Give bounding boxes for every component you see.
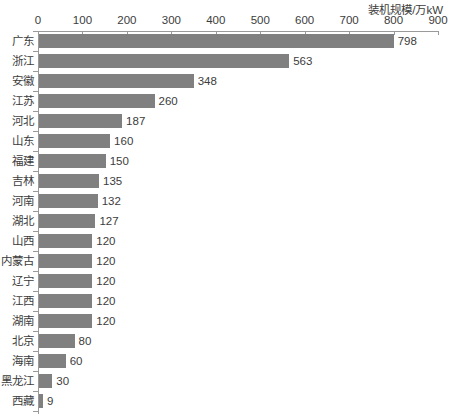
bar-value-label: 9 [47, 394, 53, 408]
category-label: 湖南 [12, 314, 34, 328]
category-label: 海南 [12, 354, 34, 368]
x-tick-label: 800 [384, 14, 403, 26]
bar [39, 74, 194, 88]
bar-row: 山东160 [0, 131, 451, 151]
x-tick-label: 600 [295, 14, 314, 26]
category-label: 山东 [12, 134, 34, 148]
bar-row: 江西120 [0, 291, 451, 311]
x-tick-label: 700 [340, 14, 359, 26]
bar [39, 354, 66, 368]
category-label: 浙江 [12, 54, 34, 68]
bar-value-label: 120 [96, 274, 115, 288]
bar [39, 54, 289, 68]
bar [39, 314, 92, 328]
bar [39, 174, 99, 188]
bar [39, 294, 92, 308]
category-label: 福建 [12, 154, 34, 168]
category-label: 山西 [12, 234, 34, 248]
bar [39, 154, 106, 168]
bar-value-label: 563 [293, 54, 312, 68]
category-label: 内蒙古 [1, 254, 34, 268]
bar-row: 江苏260 [0, 91, 451, 111]
bar-row: 湖北127 [0, 211, 451, 231]
bar-row: 河南132 [0, 191, 451, 211]
category-label: 辽宁 [12, 274, 34, 288]
bar-row: 内蒙古120 [0, 251, 451, 271]
bar-row: 安徽348 [0, 71, 451, 91]
bar-value-label: 160 [114, 134, 133, 148]
x-tick-label: 900 [428, 14, 447, 26]
category-label: 西藏 [12, 394, 34, 408]
category-label: 江西 [12, 294, 34, 308]
bar-row: 山西120 [0, 231, 451, 251]
category-label: 黑龙江 [1, 374, 34, 388]
x-tick-label: 100 [73, 14, 92, 26]
bar-chart: 装机规模/万kW 0100200300400500600700800900 广东… [0, 0, 451, 417]
bar-value-label: 132 [102, 194, 121, 208]
category-label: 北京 [12, 334, 34, 348]
bar-row: 福建150 [0, 151, 451, 171]
y-tick-mark [33, 411, 38, 412]
x-tick-label: 0 [35, 14, 41, 26]
bar-row: 湖南120 [0, 311, 451, 331]
bar-value-label: 798 [398, 34, 417, 48]
bar-row: 河北187 [0, 111, 451, 131]
bar-row: 西藏9 [0, 391, 451, 411]
category-label: 吉林 [12, 174, 34, 188]
bar [39, 334, 75, 348]
bar-row: 吉林135 [0, 171, 451, 191]
bar-value-label: 80 [79, 334, 92, 348]
bar [39, 194, 98, 208]
bar-value-label: 120 [96, 314, 115, 328]
bar-value-label: 127 [99, 214, 118, 228]
bar-value-label: 120 [96, 294, 115, 308]
bar-value-label: 60 [70, 354, 83, 368]
bar-row: 海南60 [0, 351, 451, 371]
bar-row: 北京80 [0, 331, 451, 351]
bar-row: 浙江563 [0, 51, 451, 71]
category-label: 湖北 [12, 214, 34, 228]
bar [39, 394, 43, 408]
bar-row: 黑龙江30 [0, 371, 451, 391]
bar-value-label: 260 [159, 94, 178, 108]
bar-row: 辽宁120 [0, 271, 451, 291]
bar-value-label: 120 [96, 254, 115, 268]
x-tick-label: 500 [251, 14, 270, 26]
bar [39, 94, 155, 108]
bar-value-label: 30 [56, 374, 69, 388]
x-tick-label: 200 [117, 14, 136, 26]
category-label: 河北 [12, 114, 34, 128]
bar [39, 134, 110, 148]
bar [39, 374, 52, 388]
bar-value-label: 150 [110, 154, 129, 168]
bar [39, 214, 95, 228]
bar [39, 254, 92, 268]
category-label: 河南 [12, 194, 34, 208]
category-label: 广东 [12, 34, 34, 48]
category-label: 安徽 [12, 74, 34, 88]
bar-value-label: 135 [103, 174, 122, 188]
bar [39, 234, 92, 248]
bar-row: 广东798 [0, 31, 451, 51]
category-label: 江苏 [12, 94, 34, 108]
bar [39, 34, 394, 48]
bar-value-label: 348 [198, 74, 217, 88]
bar [39, 274, 92, 288]
x-tick-label: 400 [206, 14, 225, 26]
bar [39, 114, 122, 128]
bar-value-label: 187 [126, 114, 145, 128]
x-tick-label: 300 [162, 14, 181, 26]
bar-value-label: 120 [96, 234, 115, 248]
